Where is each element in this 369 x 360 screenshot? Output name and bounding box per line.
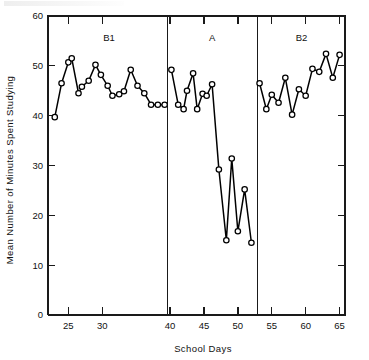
x-tick-label: 55 bbox=[266, 320, 277, 331]
data-point bbox=[317, 69, 322, 74]
data-point bbox=[121, 89, 126, 94]
data-point bbox=[175, 102, 180, 107]
data-point-markers bbox=[52, 51, 342, 245]
scan-artifact bbox=[4, 1, 124, 6]
data-point bbox=[128, 67, 133, 72]
data-point bbox=[86, 78, 91, 83]
y-tick-label: 20 bbox=[32, 210, 43, 221]
x-tick-label: 25 bbox=[63, 320, 74, 331]
data-point bbox=[162, 102, 167, 107]
phase-label-b2: B2 bbox=[296, 32, 308, 43]
data-point bbox=[69, 56, 74, 61]
phase-divider-lines bbox=[167, 16, 257, 315]
data-point bbox=[310, 66, 315, 71]
data-point bbox=[76, 91, 81, 96]
data-point bbox=[190, 71, 195, 76]
data-point bbox=[155, 102, 160, 107]
data-point bbox=[337, 52, 342, 57]
data-point bbox=[289, 112, 294, 117]
y-tick-label: 60 bbox=[32, 10, 43, 21]
data-point bbox=[235, 229, 240, 234]
data-point bbox=[110, 93, 115, 98]
data-point bbox=[169, 67, 174, 72]
data-point bbox=[264, 106, 269, 111]
y-axis-title: Mean Number of Minutes Spent Studying bbox=[4, 76, 15, 265]
data-point bbox=[224, 238, 229, 243]
data-point bbox=[323, 51, 328, 56]
phase-label-b1: B1 bbox=[103, 32, 115, 43]
x-tick-label: 50 bbox=[233, 320, 244, 331]
data-point bbox=[257, 81, 262, 86]
axis-frame bbox=[48, 16, 345, 315]
y-tick-label: 0 bbox=[38, 309, 43, 320]
x-tick-label: 40 bbox=[165, 320, 176, 331]
data-point bbox=[135, 83, 140, 88]
data-point bbox=[184, 88, 189, 93]
y-tick-label: 10 bbox=[32, 260, 43, 271]
data-point bbox=[229, 156, 234, 161]
phase-labels: B1AB2 bbox=[103, 32, 307, 43]
data-point bbox=[181, 106, 186, 111]
data-point bbox=[269, 92, 274, 97]
y-tick-label: 40 bbox=[32, 110, 43, 121]
y-tick-label: 50 bbox=[32, 60, 43, 71]
data-point bbox=[98, 72, 103, 77]
data-point bbox=[296, 87, 301, 92]
chart-container: 0102030405060 2530404550556065 B1AB2 Sch… bbox=[0, 0, 369, 360]
y-axis-ticks: 0102030405060 bbox=[32, 10, 345, 320]
data-point bbox=[194, 106, 199, 111]
data-point bbox=[142, 91, 147, 96]
data-point bbox=[204, 93, 209, 98]
data-point bbox=[242, 187, 247, 192]
x-tick-label: 30 bbox=[97, 320, 108, 331]
data-point bbox=[148, 102, 153, 107]
x-axis-ticks: 2530404550556065 bbox=[63, 16, 345, 331]
data-point bbox=[249, 240, 254, 245]
series-line-a bbox=[171, 70, 251, 243]
series-line-b2 bbox=[260, 54, 340, 115]
data-series bbox=[55, 54, 340, 243]
data-point bbox=[52, 114, 57, 119]
x-tick-label: 65 bbox=[334, 320, 345, 331]
data-point bbox=[276, 100, 281, 105]
data-point bbox=[105, 83, 110, 88]
data-point bbox=[303, 93, 308, 98]
line-chart: 0102030405060 2530404550556065 B1AB2 Sch… bbox=[0, 0, 369, 360]
y-tick-label: 30 bbox=[32, 160, 43, 171]
data-point bbox=[216, 167, 221, 172]
phase-label-a: A bbox=[209, 32, 216, 43]
x-tick-label: 60 bbox=[300, 320, 311, 331]
data-point bbox=[59, 81, 64, 86]
data-point bbox=[93, 62, 98, 67]
x-tick-label: 45 bbox=[199, 320, 210, 331]
x-axis-title: School Days bbox=[174, 343, 232, 354]
data-point bbox=[79, 84, 84, 89]
data-point bbox=[283, 75, 288, 80]
data-point bbox=[330, 75, 335, 80]
data-point bbox=[209, 82, 214, 87]
